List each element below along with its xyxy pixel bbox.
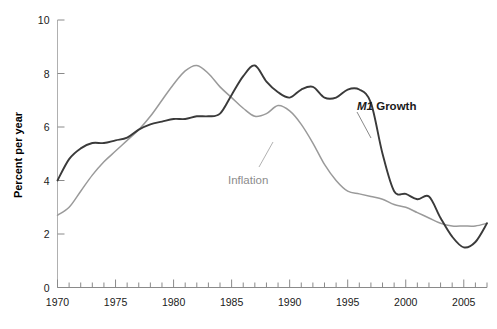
y-tick-label: 6 [44,121,50,133]
m1-leader-line [357,112,371,138]
inflation-leader-line [259,142,273,167]
annotation-leader-lines [259,112,371,167]
x-tick-label: 1980 [162,296,186,308]
series-line-m1-growth [58,65,488,247]
y-tick-label: 8 [44,68,50,80]
axes [58,20,488,288]
y-axis-title: Percent per year [12,111,24,198]
x-tick-label: 2005 [452,296,476,308]
x-axis-ticks: 19701975198019851990199520002005 [46,280,487,308]
y-axis-ticks: 0246810 [38,14,65,294]
y-tick-label: 2 [44,228,50,240]
series-paths [58,65,488,247]
x-tick-label: 1985 [220,296,244,308]
x-tick-label: 1990 [278,296,302,308]
x-tick-label: 1975 [104,296,128,308]
x-tick-label: 2000 [394,296,418,308]
chart-container: 0246810 19701975198019851990199520002005… [0,0,497,329]
x-tick-label: 1970 [46,296,70,308]
line-chart: 0246810 19701975198019851990199520002005… [0,0,497,329]
y-tick-label: 10 [38,14,50,26]
m1-growth-label-italic: M1 [357,100,373,112]
series-line-inflation [58,65,488,226]
y-tick-label: 4 [44,175,50,187]
inflation-label: Inflation [228,174,268,186]
m1-growth-label: M1 Growth [357,100,416,112]
x-tick-label: 1995 [336,296,360,308]
m1-growth-label-rest: Growth [376,100,416,112]
y-tick-label: 0 [44,282,50,294]
